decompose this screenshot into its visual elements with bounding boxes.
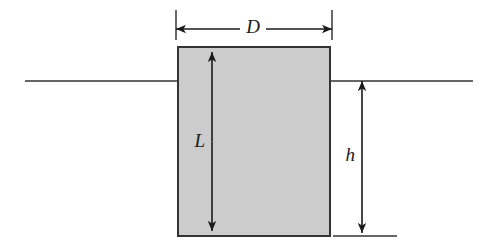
figure-canvas: D L h bbox=[0, 0, 493, 249]
dimension-label-h: h bbox=[346, 144, 356, 165]
dimension-label-l: L bbox=[193, 130, 205, 151]
dimension-label-d: D bbox=[245, 16, 260, 37]
cross-section-diagram: D L h bbox=[0, 0, 493, 249]
